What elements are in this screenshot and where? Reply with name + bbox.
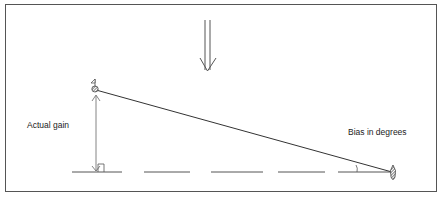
double-line-down-arrow-icon	[200, 20, 216, 71]
gain-arrow	[92, 95, 100, 171]
hatched-teardrop-icon	[390, 165, 395, 180]
actual-gain-label: Actual gain	[27, 120, 69, 130]
diagram-canvas	[0, 0, 445, 199]
flag-on-rock-icon	[91, 79, 98, 92]
angle-arc-marker	[356, 165, 357, 172]
bias-label: Bias in degrees	[348, 127, 407, 137]
